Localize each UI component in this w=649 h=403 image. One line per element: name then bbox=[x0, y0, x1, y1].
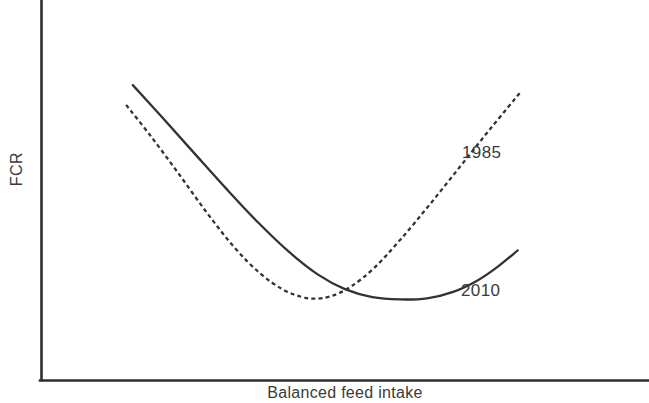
chart-figure: FCR Balanced feed intake 1985 2010 bbox=[0, 0, 649, 403]
series-label-1985: 1985 bbox=[462, 143, 501, 163]
y-axis-label: FCR bbox=[8, 139, 26, 199]
series-line-1985 bbox=[126, 91, 521, 298]
x-axis-label: Balanced feed intake bbox=[41, 384, 649, 402]
series-label-2010: 2010 bbox=[461, 281, 500, 301]
chart-plot-area bbox=[0, 0, 649, 403]
series-line-2010 bbox=[133, 85, 518, 299]
